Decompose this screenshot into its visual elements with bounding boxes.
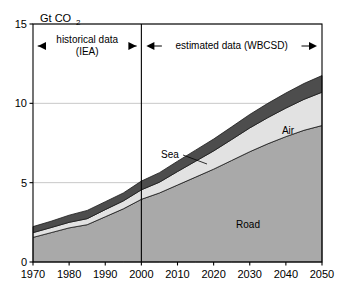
x-tick-label-2030: 2030 [238, 268, 262, 280]
y-tick-label-5: 5 [21, 177, 27, 189]
y-axis-title-main: Gt CO [40, 12, 72, 24]
x-tick-label-2050: 2050 [310, 268, 334, 280]
y-tick-label-10: 10 [15, 97, 27, 109]
chart-container: 051015 197019801990200020102020203020402… [0, 0, 345, 294]
x-tick-label-2040: 2040 [274, 268, 298, 280]
x-tick-label-2020: 2020 [201, 268, 225, 280]
x-axis-tick-labels: 197019801990200020102020203020402050 [21, 268, 334, 280]
series-label-air: Air [282, 125, 295, 136]
y-tick-label-15: 15 [15, 18, 27, 30]
annotation-text-estimated-line1: estimated data (WBCSD) [176, 40, 288, 51]
annotation-text-historical-line1: historical data [56, 34, 118, 45]
x-tick-label-2000: 2000 [129, 268, 153, 280]
x-tick-label-1990: 1990 [93, 268, 117, 280]
series-label-road: Road [236, 219, 260, 230]
x-tick-label-1970: 1970 [21, 268, 45, 280]
x-tick-label-1980: 1980 [57, 268, 81, 280]
co2-emissions-area-chart: 051015 197019801990200020102020203020402… [0, 0, 345, 294]
y-tick-label-0: 0 [21, 256, 27, 268]
x-tick-label-2010: 2010 [165, 268, 189, 280]
series-label-sea: Sea [161, 149, 179, 160]
y-axis-title-subscript: 2 [76, 18, 81, 27]
annotation-text-historical-line2: (IEA) [76, 46, 99, 57]
